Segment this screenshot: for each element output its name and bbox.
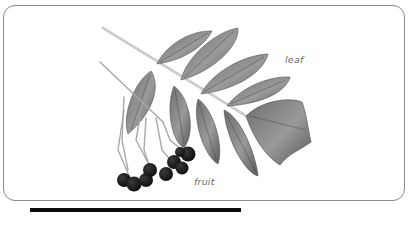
fruit-label: fruit <box>194 176 215 187</box>
leaf <box>103 28 311 176</box>
bottom-bar <box>30 208 241 212</box>
leaf-label: leaf <box>285 54 303 65</box>
